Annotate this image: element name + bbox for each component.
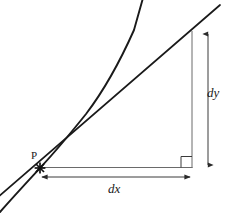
point-p-marker (35, 163, 46, 174)
right-angle-marker (181, 157, 192, 168)
figure-canvas: P dy dx (0, 0, 225, 213)
dy-label: dy (207, 86, 219, 99)
dx-label: dx (108, 182, 120, 195)
point-p-label: P (31, 150, 37, 161)
curve-path (0, 0, 143, 212)
tangent-line (0, 5, 220, 197)
